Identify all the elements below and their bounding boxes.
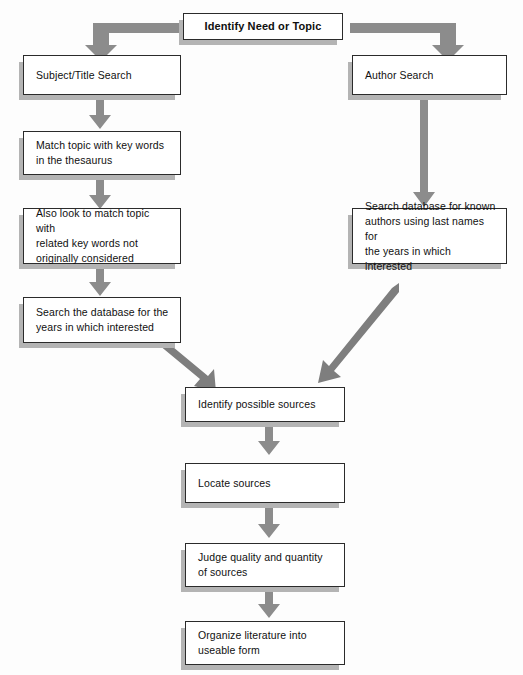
connector-identify-sources-to-locate-sources-icon: [257, 424, 281, 456]
node-search-database-years[interactable]: Search the database for the years in whi…: [23, 297, 181, 343]
node-judge-quality-quantity[interactable]: Judge quality and quantity of sources: [185, 543, 345, 587]
node-search-database-authors[interactable]: Search database for known authors using …: [352, 208, 507, 264]
connector-judge-sources-to-organize-literature-icon: [257, 587, 281, 619]
node-label: Identify possible sources: [186, 397, 325, 412]
flowchart-canvas: Identify Need or Topic Subject/Title Sea…: [0, 0, 523, 675]
node-label: Match topic with key words in the thesau…: [24, 138, 174, 168]
connector-locate-sources-to-judge-sources-icon: [257, 507, 281, 539]
node-label: Judge quality and quantity of sources: [186, 550, 333, 580]
node-label: Also look to match topic with related ke…: [24, 206, 180, 266]
connector-related-keywords-to-search-years-icon: [88, 265, 112, 297]
node-organize-literature[interactable]: Organize literature into useable form: [185, 621, 345, 665]
node-related-key-words[interactable]: Also look to match topic with related ke…: [23, 208, 181, 264]
node-label: Locate sources: [186, 476, 281, 491]
node-label: Subject/Title Search: [24, 68, 142, 83]
node-label: Author Search: [353, 68, 443, 83]
node-match-topic-thesaurus[interactable]: Match topic with key words in the thesau…: [23, 131, 181, 175]
connector-search-authors-to-identify-sources-icon: [300, 283, 400, 393]
connector-author-search-to-search-authors-icon: [412, 98, 436, 208]
node-author-search[interactable]: Author Search: [352, 55, 507, 95]
node-identify-possible-sources[interactable]: Identify possible sources: [185, 387, 345, 422]
connector-subject-search-to-match-thesaurus-icon: [88, 98, 112, 130]
node-label: Identify Need or Topic: [205, 19, 322, 34]
node-identify-need-or-topic[interactable]: Identify Need or Topic: [183, 13, 343, 40]
node-label: Organize literature into useable form: [186, 628, 317, 658]
node-label: Search database for known authors using …: [353, 199, 506, 274]
node-label: Search the database for the years in whi…: [24, 305, 178, 335]
node-locate-sources[interactable]: Locate sources: [185, 463, 345, 503]
node-subject-title-search[interactable]: Subject/Title Search: [23, 55, 181, 95]
